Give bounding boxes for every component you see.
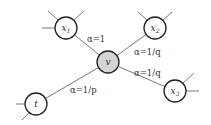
node-v: v <box>97 51 119 73</box>
edge-label-v-t: α=1/p <box>70 85 97 95</box>
graph-diagram: x1 x2 v x3 t α=1 α=1/q α=1/q α=1/p <box>0 0 211 125</box>
edge-label-v-x2: α=1/q <box>134 47 161 57</box>
node-label: t <box>34 99 38 109</box>
edge-label-v-x3: α=1/q <box>134 68 161 78</box>
node-x2: x2 <box>144 17 166 39</box>
node-t: t <box>25 93 47 115</box>
node-label: v <box>105 57 110 67</box>
edge-v-t <box>36 62 108 104</box>
edge-label-v-x1: α=1 <box>87 34 105 44</box>
node-x1: x1 <box>55 17 77 39</box>
node-x3: x3 <box>164 80 186 102</box>
